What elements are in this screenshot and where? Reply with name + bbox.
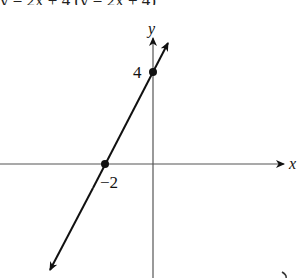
stray-mark (282, 272, 286, 278)
coordinate-graph: x y 4 −2 (0, 0, 300, 278)
point-x-intercept (101, 160, 109, 168)
point-label-x-intercept: −2 (100, 173, 118, 192)
y-axis-label: y (146, 20, 156, 38)
point-y-intercept (149, 68, 157, 76)
point-label-y-intercept: 4 (133, 63, 142, 82)
graph-line (50, 188, 93, 270)
x-axis-label: x (288, 155, 296, 172)
